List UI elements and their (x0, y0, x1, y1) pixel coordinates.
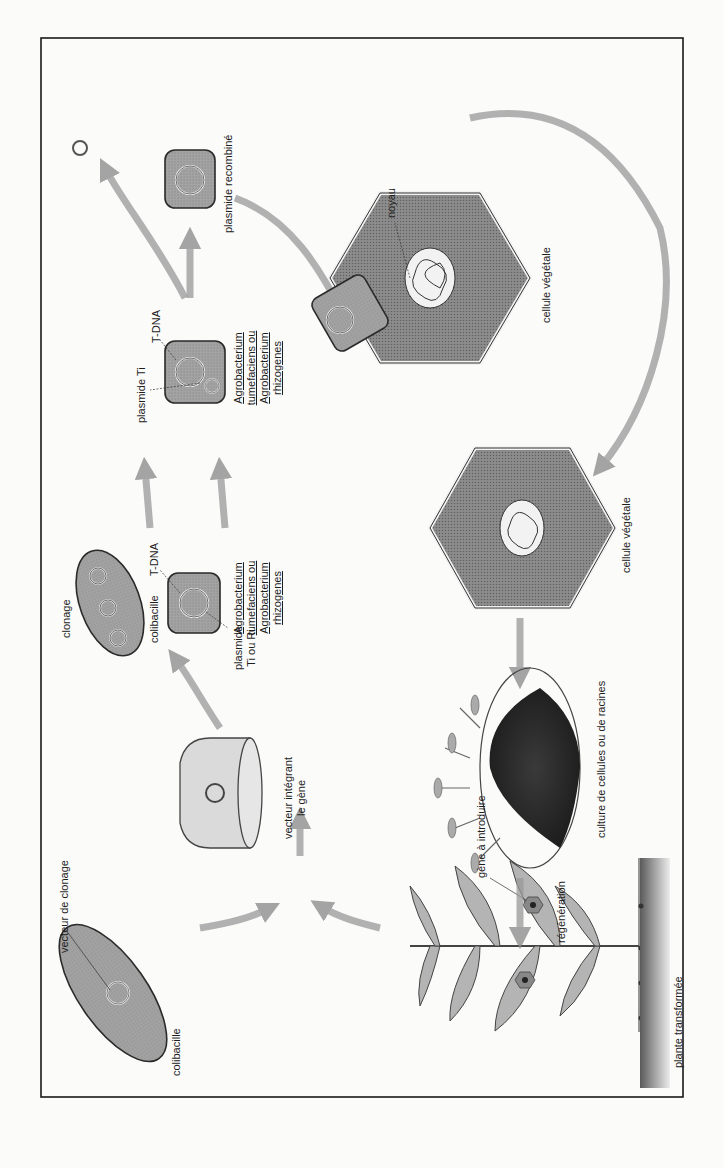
arrow-to-vector-1 (200, 908, 270, 928)
diagram-stage: vecteur de clonage colibacille gène à in… (0, 0, 723, 1168)
arrow-to-clonage (175, 658, 220, 728)
label-t-dna-1: T-DNA (148, 543, 161, 576)
agrobacterium-plasmide-ti (150, 340, 225, 403)
label-culture: culture de cellules ou de racines (595, 681, 608, 838)
label-cellule-vegetale-1: cellule végétale (540, 247, 553, 323)
vecteur-integrant-le-gene (180, 738, 275, 868)
culture-dish (434, 668, 580, 873)
label-agrobacterium-species-2: Agrobacterium tumefaciens ou Agrobacteri… (232, 331, 284, 406)
arrow-clonage-to-agro (145, 468, 150, 528)
label-colibacille-clonage: colibacille (148, 595, 161, 643)
label-plasmide-ti: plasmide Ti (135, 367, 148, 423)
arrow-to-vector-2 (320, 906, 380, 928)
label-noyau: noyau (385, 188, 398, 218)
arrow-agro-to-agro (220, 468, 225, 528)
label-plasmide-recombine: plasmide recombiné (222, 135, 235, 233)
label-vecteur-integrant: vecteur intégrant le gène (282, 757, 308, 839)
page: vecteur de clonage colibacille gène à in… (0, 0, 723, 1168)
plante-transformee (560, 928, 670, 1088)
label-t-dna-2: T-DNA (150, 310, 163, 343)
source-plant (410, 858, 670, 1033)
cellule-vegetale-transformee (430, 448, 615, 608)
cellule-vegetale-infectee (309, 193, 530, 363)
agrobacterium-ti-ri (160, 570, 228, 633)
label-plante-transformee: plante transformée (672, 976, 685, 1068)
plasmide-recombine-cell (165, 150, 215, 208)
label-vecteur-de-clonage: vecteur de clonage (58, 860, 71, 953)
label-clonage: clonage (60, 599, 73, 638)
diagram-artwork (0, 0, 723, 1168)
label-gene-a-introduire: gène à introduire (475, 795, 488, 878)
colibacille-clonage (63, 541, 157, 665)
label-regeneration: régénération (555, 881, 568, 943)
free-plasmid (73, 141, 87, 155)
label-colibacille-start: colibacille (170, 1028, 183, 1076)
label-cellule-vegetale-2: cellule végétale (620, 497, 633, 573)
label-agrobacterium-species-1: Agrobacterium tumefaciens ou Agrobacteri… (232, 561, 284, 636)
